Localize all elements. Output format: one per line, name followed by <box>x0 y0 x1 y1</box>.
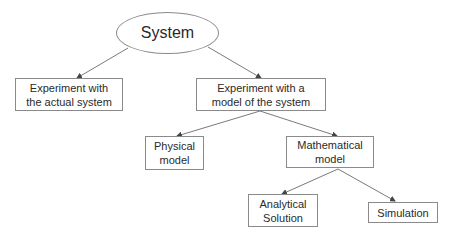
edge-model-to-math <box>260 111 337 136</box>
node-analytical-solution: Analytical Solution <box>248 194 318 227</box>
node-system: System <box>116 12 219 54</box>
node-simulation: Simulation <box>368 202 438 223</box>
node-experiment-actual-system: Experiment with the actual system <box>15 78 123 111</box>
edge-system-to-actual <box>77 48 128 78</box>
edge-model-to-physical <box>177 111 260 136</box>
node-experiment-model: Experiment with a model of the system <box>196 78 326 111</box>
edge-math-to-analytical <box>282 169 338 194</box>
edge-math-to-simulation <box>338 169 395 201</box>
edge-system-to-model <box>208 47 261 78</box>
node-mathematical-model: Mathematical model <box>286 136 374 168</box>
node-physical-model: Physical model <box>145 136 204 170</box>
